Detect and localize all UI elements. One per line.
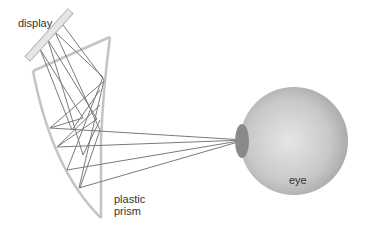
prism-label-line2: prism	[114, 205, 141, 218]
eye-label: eye	[289, 174, 307, 187]
display-label: display	[18, 17, 52, 30]
pupil-lens	[235, 124, 249, 158]
ray-6	[48, 40, 100, 155]
optical-diagram	[0, 0, 375, 234]
prism-right-edge	[101, 37, 110, 218]
light-rays	[40, 25, 245, 188]
ray-2	[48, 40, 245, 147]
ray-4	[63, 25, 245, 188]
ray-5	[40, 49, 100, 130]
ray-8	[50, 82, 103, 128]
